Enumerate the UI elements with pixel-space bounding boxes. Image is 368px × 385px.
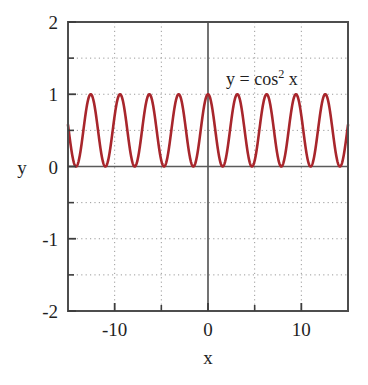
y-tick-label-0: 0 (34, 157, 58, 176)
chart-figure: 2 1 0 -1 -2 -10 0 10 y x y = cos2 x (0, 0, 368, 385)
equation-lhs: y = cos (226, 69, 278, 89)
y-tick-label-2: 2 (34, 13, 58, 32)
x-tick-label-10: 10 (292, 320, 311, 339)
x-tick-label-0: 0 (203, 320, 213, 339)
y-tick-label-1: 1 (34, 85, 58, 104)
x-axis-title: x (203, 348, 213, 367)
plot-canvas (0, 0, 368, 385)
x-tick-label-minus-10: -10 (102, 320, 127, 339)
y-tick-label-minus-1: -1 (28, 229, 58, 248)
equation-rhs: x (284, 69, 298, 89)
y-tick-label-minus-2: -2 (28, 302, 58, 321)
y-axis-title: y (17, 158, 27, 177)
equation-annotation: y = cos2 x (226, 70, 298, 88)
